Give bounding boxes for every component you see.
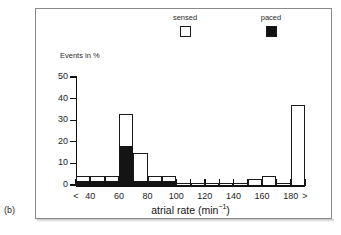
bar-sensed [191,183,205,185]
cropped-caption-strip [34,0,334,7]
y-tick-label: 10 [42,157,68,167]
bar-paced [119,146,133,185]
bar-sensed [291,105,305,185]
bar-paced [162,181,176,185]
bar-paced [76,181,90,185]
bar-sensed [219,183,233,185]
bar-sensed [176,183,190,185]
y-tick-label: 50 [42,71,68,81]
bar-sensed [205,183,219,185]
histogram-bars [76,9,305,220]
bar-paced [148,181,162,185]
plot-area: Events in % 01020304050 <406080100120140… [36,9,333,220]
y-tick-label: 30 [42,114,68,124]
frame-shadow [37,219,334,222]
bar-sensed [233,183,247,185]
y-tick-label: 40 [42,93,68,103]
bar-sensed [262,176,276,185]
panel-label: (b) [4,205,15,215]
bar-paced [90,181,104,185]
bar-sensed [276,183,290,185]
plot-frame: sensed paced Events in % 01020304050 <40… [35,8,332,219]
bar-paced [105,181,119,185]
y-tick-label: 0 [42,179,68,189]
bar-paced [133,181,147,185]
x-axis-title: atrial rate (min−1) [76,203,305,216]
figure-panel-b: sensed paced Events in % 01020304050 <40… [0,0,341,235]
bar-sensed [248,179,262,185]
y-tick-label: 20 [42,136,68,146]
